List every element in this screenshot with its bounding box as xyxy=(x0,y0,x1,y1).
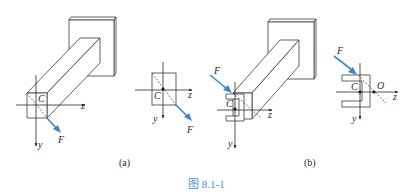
centroid-point xyxy=(233,107,236,110)
centroid-point xyxy=(161,87,164,90)
centroid-label: C xyxy=(226,98,233,109)
force-arrow-F xyxy=(210,75,232,93)
force-arrow-F xyxy=(176,105,192,121)
shear-center-label: O xyxy=(377,80,384,91)
figure-caption: 图 8.1-1 xyxy=(188,178,225,190)
subfigure-label-a: (a) xyxy=(119,157,130,169)
y-axis-label: y xyxy=(227,138,233,149)
force-arrow-F xyxy=(47,118,61,133)
panel-a-cross-section: C z y F xyxy=(135,62,194,135)
y-axis-label: y xyxy=(152,113,158,124)
z-axis-label: z xyxy=(392,91,397,102)
force-label: F xyxy=(213,65,221,76)
centroid-label: C xyxy=(154,90,161,101)
panel-a-isometric-beam: C z y F xyxy=(16,17,116,150)
y-axis-label: y xyxy=(351,113,357,124)
shear-center-point xyxy=(372,90,375,93)
subfigure-label-b: (b) xyxy=(304,157,316,169)
force-label: F xyxy=(57,134,65,145)
centroid-point xyxy=(358,90,361,93)
z-axis-label: z xyxy=(187,89,192,100)
z-axis-label: z xyxy=(80,100,85,111)
force-arrow-F xyxy=(334,56,357,75)
centroid-label: C xyxy=(351,81,358,92)
panel-b-isometric-beam: C z y F xyxy=(210,19,316,149)
force-label: F xyxy=(336,45,344,56)
z-axis-label: z xyxy=(267,109,272,120)
force-label: F xyxy=(186,124,194,135)
beam-prism xyxy=(27,38,100,118)
centroid-label: C xyxy=(38,93,45,104)
panel-b-cross-section: C O z y F xyxy=(334,45,398,124)
y-axis-label: y xyxy=(37,139,43,150)
figure-8-1-1: C z y F C z y F (a) xyxy=(0,0,414,192)
